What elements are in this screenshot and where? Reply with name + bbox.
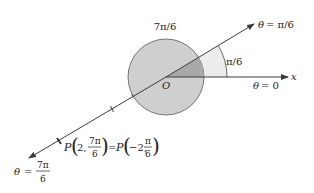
polar-diagram: 7π/6 θ = π/6 π/6 O x θ = 0 P ( 2, 7π 6 )… — [0, 0, 314, 193]
label-x-axis: x — [291, 71, 297, 82]
label-theta-zero-var: θ — [253, 80, 259, 91]
svg-text:=: = — [24, 166, 32, 177]
svg-text:6: 6 — [145, 149, 151, 159]
label-theta-pi6-var: θ — [258, 19, 264, 30]
point-P-formula: P ( 2, 7π 6 ) = P ( −2, π 6 ) — [63, 134, 160, 159]
svg-text:): ) — [152, 134, 160, 158]
svg-text:6: 6 — [92, 149, 98, 159]
label-angle-pi6: π/6 — [226, 56, 242, 67]
svg-text:π: π — [145, 136, 151, 146]
svg-text:7π: 7π — [89, 136, 101, 146]
svg-text:2,: 2, — [77, 142, 87, 153]
label-top-angle: 7π/6 — [154, 21, 177, 32]
svg-text:7π: 7π — [37, 160, 49, 170]
label-origin: O — [162, 80, 170, 91]
svg-text:θ: θ — [14, 166, 20, 177]
label-theta-pi6-eq: = π/6 — [266, 19, 294, 30]
label-theta-7pi6: θ = 7π 6 — [14, 160, 50, 184]
svg-text:6: 6 — [40, 174, 46, 184]
label-theta-zero-eq: = 0 — [261, 80, 279, 91]
